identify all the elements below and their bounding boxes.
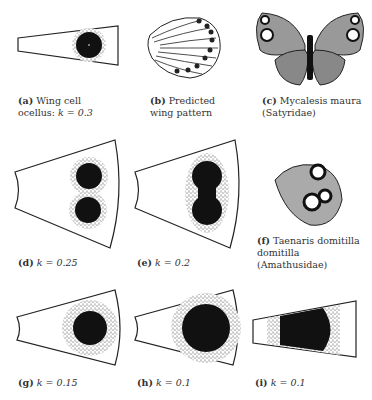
caption-b: (b) Predicted wing pattern [150, 95, 215, 119]
caption-h: (h) k = 0.1 [137, 377, 191, 389]
caption-e: (e) k = 0.2 [137, 257, 190, 269]
caption-d: (d) k = 0.25 [18, 257, 78, 269]
wing-cell-g [0, 285, 125, 370]
caption-f: (f) Taenaris domitilla domitilla (Amathu… [257, 235, 372, 271]
caption-i: (i) k = 0.1 [255, 377, 306, 389]
caption-c: (c) Mycalesis maura (Satyridae) [262, 95, 361, 119]
wing-cell-ocellus-a [0, 0, 130, 80]
predicted-wing-pattern-b [140, 0, 230, 90]
wing-taenaris-f [270, 160, 350, 230]
wing-cell-d [0, 140, 120, 260]
wing-cell-e [130, 140, 250, 260]
wing-cell-h [130, 285, 255, 370]
wing-cell-i [250, 285, 370, 370]
caption-g: (g) k = 0.15 [18, 377, 78, 389]
caption-a: (a) Wing cell ocellus: k = 0.3 [18, 95, 93, 119]
butterfly-mycalesis-c [250, 5, 370, 90]
